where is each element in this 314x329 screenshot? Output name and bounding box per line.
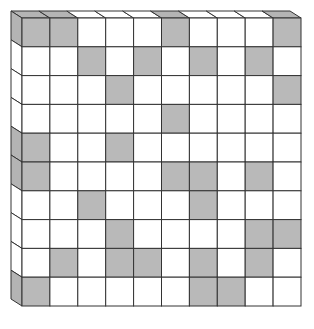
grid-cell-shaded bbox=[106, 76, 134, 105]
grid-cell-shaded bbox=[22, 18, 50, 47]
grid-cell-empty bbox=[22, 191, 50, 220]
grid-cell-shaded bbox=[134, 47, 162, 76]
grid-cell-shaded bbox=[273, 18, 301, 47]
grid-board-svg bbox=[0, 0, 314, 329]
grid-cell-empty bbox=[217, 47, 245, 76]
grid-cell-empty bbox=[189, 133, 217, 162]
grid-cell-empty bbox=[50, 162, 78, 191]
grid-cell-shaded bbox=[189, 162, 217, 191]
grid-cell-empty bbox=[273, 162, 301, 191]
grid-cell-empty bbox=[78, 220, 106, 249]
grid-cell-shaded bbox=[22, 162, 50, 191]
grid-cell-empty bbox=[217, 191, 245, 220]
grid-cell-empty bbox=[50, 47, 78, 76]
grid-cell-empty bbox=[134, 133, 162, 162]
grid-cell-empty bbox=[217, 133, 245, 162]
grid-cell-empty bbox=[22, 248, 50, 277]
grid-cell-empty bbox=[162, 277, 190, 306]
grid-cell-shaded bbox=[245, 220, 273, 249]
grid-cell-empty bbox=[273, 248, 301, 277]
grid-cell-shaded bbox=[22, 133, 50, 162]
grid-cell-empty bbox=[22, 47, 50, 76]
grid-cell-shaded bbox=[50, 18, 78, 47]
grid-cell-shaded bbox=[134, 248, 162, 277]
grid-cell-shaded bbox=[22, 277, 50, 306]
grid-cell-empty bbox=[162, 133, 190, 162]
grid-cell-shaded bbox=[78, 191, 106, 220]
grid-cell-empty bbox=[134, 104, 162, 133]
grid-cell-empty bbox=[189, 18, 217, 47]
grid-cell-shaded bbox=[162, 162, 190, 191]
grid-cell-empty bbox=[78, 133, 106, 162]
front-face bbox=[22, 18, 301, 306]
grid-cell-empty bbox=[162, 248, 190, 277]
grid-cell-empty bbox=[134, 162, 162, 191]
grid-cell-empty bbox=[162, 47, 190, 76]
grid-cell-shaded bbox=[162, 104, 190, 133]
grid-cell-empty bbox=[134, 18, 162, 47]
grid-cell-shaded bbox=[78, 47, 106, 76]
grid-cell-empty bbox=[134, 277, 162, 306]
grid-cell-shaded bbox=[245, 162, 273, 191]
grid-cell-empty bbox=[106, 104, 134, 133]
grid-cell-empty bbox=[162, 191, 190, 220]
grid-board bbox=[0, 0, 314, 329]
grid-cell-empty bbox=[134, 76, 162, 105]
grid-cell-shaded bbox=[189, 47, 217, 76]
grid-cell-shaded bbox=[189, 248, 217, 277]
grid-cell-empty bbox=[106, 47, 134, 76]
grid-cell-empty bbox=[217, 162, 245, 191]
grid-cell-shaded bbox=[217, 277, 245, 306]
grid-cell-empty bbox=[245, 104, 273, 133]
grid-cell-empty bbox=[78, 277, 106, 306]
grid-cell-empty bbox=[22, 76, 50, 105]
grid-cell-empty bbox=[162, 220, 190, 249]
grid-cell-empty bbox=[245, 76, 273, 105]
grid-cell-empty bbox=[106, 18, 134, 47]
grid-cell-empty bbox=[50, 133, 78, 162]
grid-cell-empty bbox=[245, 18, 273, 47]
grid-cell-shaded bbox=[189, 191, 217, 220]
grid-cell-empty bbox=[50, 76, 78, 105]
grid-cell-empty bbox=[273, 191, 301, 220]
grid-cell-empty bbox=[273, 133, 301, 162]
grid-cell-shaded bbox=[245, 47, 273, 76]
grid-cell-shaded bbox=[106, 220, 134, 249]
grid-cell-shaded bbox=[50, 248, 78, 277]
grid-cell-empty bbox=[189, 220, 217, 249]
grid-cell-empty bbox=[106, 191, 134, 220]
grid-cell-empty bbox=[22, 220, 50, 249]
grid-cell-empty bbox=[134, 191, 162, 220]
left-face bbox=[11, 11, 22, 306]
grid-cell-shaded bbox=[106, 248, 134, 277]
grid-cell-empty bbox=[273, 47, 301, 76]
grid-cell-empty bbox=[78, 76, 106, 105]
grid-cell-empty bbox=[217, 76, 245, 105]
grid-cell-empty bbox=[217, 220, 245, 249]
grid-cell-empty bbox=[50, 277, 78, 306]
grid-cell-empty bbox=[162, 76, 190, 105]
grid-cell-empty bbox=[217, 18, 245, 47]
grid-cell-empty bbox=[189, 76, 217, 105]
grid-cell-empty bbox=[273, 277, 301, 306]
grid-cell-empty bbox=[106, 162, 134, 191]
grid-cell-empty bbox=[245, 133, 273, 162]
grid-cell-shaded bbox=[245, 248, 273, 277]
grid-cell-shaded bbox=[273, 76, 301, 105]
grid-cell-empty bbox=[22, 104, 50, 133]
grid-cell-empty bbox=[189, 104, 217, 133]
left-face-cell bbox=[11, 270, 22, 306]
grid-cell-empty bbox=[217, 104, 245, 133]
grid-cell-shaded bbox=[106, 133, 134, 162]
grid-cell-empty bbox=[50, 220, 78, 249]
grid-cell-shaded bbox=[273, 220, 301, 249]
grid-cell-empty bbox=[273, 104, 301, 133]
grid-cell-empty bbox=[134, 220, 162, 249]
grid-cell-empty bbox=[78, 248, 106, 277]
top-face bbox=[11, 11, 301, 18]
grid-cell-empty bbox=[245, 191, 273, 220]
grid-cell-empty bbox=[78, 18, 106, 47]
grid-cell-shaded bbox=[189, 277, 217, 306]
grid-cell-empty bbox=[245, 277, 273, 306]
grid-cell-empty bbox=[78, 104, 106, 133]
